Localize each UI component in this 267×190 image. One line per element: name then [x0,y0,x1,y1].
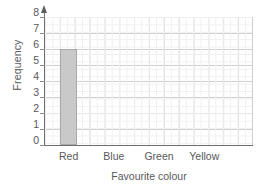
x-axis-tick-labels: RedBlueGreenYellow [45,150,253,166]
y-axis-tick-mark [40,113,45,114]
y-axis-arrow-icon [41,5,47,13]
x-axis-tick-label-red: Red [59,150,78,163]
x-axis-title: Favourite colour [45,170,253,182]
y-axis-tick-mark [40,145,45,146]
y-axis-tick-label: 3 [26,87,39,97]
y-axis-tick-mark [40,17,45,18]
x-axis-tick-label-blue: Blue [103,150,124,163]
y-axis-tick-label: 2 [26,103,39,113]
y-axis-tick-mark [40,81,45,82]
y-axis-tick-label: 8 [26,7,39,17]
x-axis-line [40,145,253,146]
y-axis-tick-mark [40,33,45,34]
bars-layer [45,17,253,145]
y-axis-tick-label: 7 [26,23,39,33]
bar-red [60,49,78,145]
y-axis-title: Frequency [11,10,23,120]
y-axis-tick-labels: 012345678 [26,12,39,145]
y-axis-line [44,12,45,145]
y-axis-tick-label: 0 [26,135,39,145]
y-axis-tick-mark [40,97,45,98]
y-axis-tick-mark [40,65,45,66]
y-axis-tick-mark [40,49,45,50]
x-axis-tick-label-green: Green [144,150,173,163]
y-axis-tick-label: 4 [26,71,39,81]
y-axis-tick-label: 1 [26,119,39,129]
x-axis-tick-label-yellow: Yellow [189,150,219,163]
bar-chart: Frequency 012345678 RedBlueGreenYellow F… [0,0,267,190]
y-axis-tick-mark [40,129,45,130]
y-axis-tick-label: 6 [26,39,39,49]
y-axis-tick-label: 5 [26,55,39,65]
